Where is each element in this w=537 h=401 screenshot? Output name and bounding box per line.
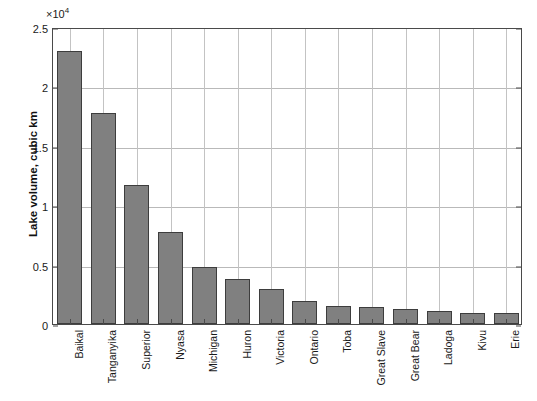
- axis-exponent-power: 4: [65, 6, 69, 15]
- gridline-horizontal: [53, 148, 521, 149]
- y-axis-tick-mark: [516, 266, 521, 267]
- x-axis-tick-mark: [372, 319, 373, 324]
- x-axis-tick-label: Kivu: [476, 330, 488, 350]
- x-axis-tick-label: Erie: [509, 330, 521, 349]
- bar-chart-figure: ×104 Lake volume, cubic km 00.511.522.5 …: [0, 0, 537, 401]
- bar: [225, 279, 250, 324]
- x-axis-tick-mark: [338, 319, 339, 324]
- y-axis-tick-mark: [516, 88, 521, 89]
- x-axis-tick-mark: [70, 319, 71, 324]
- gridline-vertical: [439, 29, 440, 324]
- x-axis-tick-mark: [137, 319, 138, 324]
- gridline-vertical: [271, 29, 272, 324]
- gridline-vertical: [338, 29, 339, 324]
- x-axis-tick-mark: [204, 319, 205, 324]
- x-axis-tick-mark: [238, 319, 239, 324]
- x-axis-tick-label: Baikal: [73, 330, 85, 359]
- x-axis-tick-mark: [439, 319, 440, 324]
- gridline-vertical: [473, 29, 474, 324]
- x-axis-tick-label: Victoria: [274, 330, 286, 365]
- x-axis-tick-label: Michigan: [207, 330, 219, 372]
- y-axis-title: Lake volume, cubic km: [27, 79, 39, 269]
- y-axis-tick-mark: [516, 147, 521, 148]
- x-axis-tick-mark: [506, 319, 507, 324]
- x-axis-tick-mark: [305, 319, 306, 324]
- y-axis-tick-label: 0.5: [33, 261, 48, 273]
- x-axis-tick-mark: [406, 319, 407, 324]
- y-axis-tick-label: 1.5: [33, 142, 48, 154]
- bar: [91, 113, 116, 324]
- axis-exponent-base: ×10: [46, 8, 65, 20]
- x-axis-tick-label: Toba: [341, 330, 353, 353]
- axis-exponent-label: ×104: [46, 6, 69, 20]
- x-axis-tick-mark: [271, 319, 272, 324]
- x-axis-tick-label: Great Slave: [375, 330, 387, 385]
- y-axis-tick-mark: [53, 326, 58, 327]
- plot-area: 00.511.522.5: [52, 28, 522, 325]
- x-axis-tick-label: Tanganyika: [106, 330, 118, 383]
- y-axis-tick-mark: [53, 29, 58, 30]
- gridline-vertical: [406, 29, 407, 324]
- y-axis-tick-mark: [516, 29, 521, 30]
- y-axis-tick-label: 2: [42, 82, 48, 94]
- x-axis-tick-label: Nyasa: [174, 330, 186, 360]
- x-axis-tick-mark: [103, 319, 104, 324]
- y-axis-tick-mark: [516, 207, 521, 208]
- x-axis-tick-label: Ontario: [308, 330, 320, 364]
- bar: [192, 267, 217, 324]
- y-axis-tick-label: 0: [42, 320, 48, 332]
- gridline-horizontal: [53, 207, 521, 208]
- x-axis-tick-label: Huron: [241, 330, 253, 359]
- bar: [158, 232, 183, 324]
- x-axis-tick-label: Ladoga: [442, 330, 454, 365]
- x-axis-tick-mark: [171, 319, 172, 324]
- bar: [124, 185, 149, 324]
- bar: [57, 51, 82, 324]
- y-axis-tick-label: 1: [42, 201, 48, 213]
- gridline-vertical: [372, 29, 373, 324]
- y-axis-tick-mark: [516, 326, 521, 327]
- x-axis-tick-mark: [473, 319, 474, 324]
- gridline-vertical: [506, 29, 507, 324]
- y-axis-tick-label: 2.5: [33, 23, 48, 35]
- x-axis-tick-label: Superior: [140, 330, 152, 370]
- gridline-vertical: [305, 29, 306, 324]
- gridline-horizontal: [53, 267, 521, 268]
- x-axis-tick-label: Great Bear: [409, 330, 421, 381]
- gridline-horizontal: [53, 88, 521, 89]
